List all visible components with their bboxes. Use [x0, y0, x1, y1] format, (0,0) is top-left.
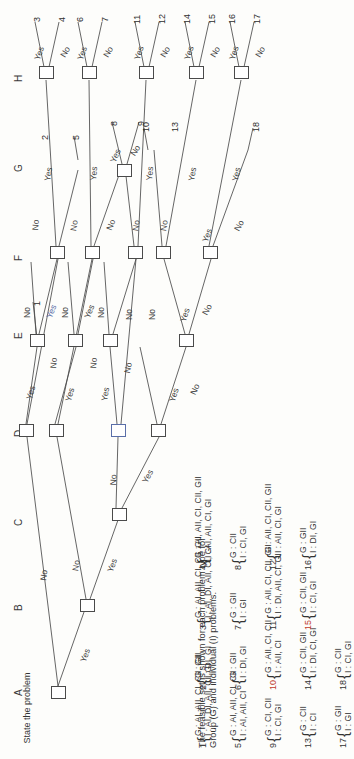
- tree-node-h5[interactable]: [234, 66, 249, 79]
- legend-index: 5: [233, 743, 243, 748]
- legend-brace-icon: {: [337, 732, 349, 737]
- leaf-number-4: 4: [57, 17, 67, 22]
- tree-node-d4[interactable]: [151, 424, 166, 437]
- leaf-number-16: 16: [227, 14, 237, 24]
- legend-brace-icon: {: [267, 554, 279, 559]
- tree-node-b1[interactable]: [80, 599, 95, 612]
- legend-brace-icon: {: [232, 737, 244, 742]
- legend-item: 18{G : CIII : CI, GI: [333, 641, 354, 690]
- edge-label-no: No: [22, 307, 32, 318]
- legend-item: 4{G : AI, AII, CI, CII, GIII : AI, AII, …: [193, 476, 214, 570]
- edge-label-no: No: [130, 219, 142, 231]
- legend-item: 9{G : CI, CIII : CI, GI: [263, 698, 284, 748]
- legend-index: 12: [268, 560, 278, 570]
- leaf-number-18: 18: [251, 122, 261, 132]
- leaf-number-12: 12: [157, 14, 167, 24]
- leaf-number-14: 14: [182, 14, 192, 24]
- leaf-number-15: 15: [207, 14, 217, 24]
- legend-group-set: G : CII: [298, 706, 308, 731]
- legend-individual-set: I : CI: [308, 706, 318, 731]
- legend-brace-icon: {: [232, 679, 244, 684]
- legend-brace-icon: {: [302, 732, 314, 737]
- legend-individual-set: I : GI: [343, 706, 353, 731]
- legend-item: 17{G : GIII : GI: [333, 706, 354, 748]
- tree-node-h4[interactable]: [189, 66, 204, 79]
- edge-label-no: No: [147, 309, 157, 320]
- legend-index: 14: [303, 680, 313, 690]
- tree-node-h2[interactable]: [82, 66, 97, 79]
- tree-node-f1[interactable]: [50, 246, 65, 259]
- leaf-number-1: 1: [32, 301, 42, 306]
- legend-item: 6{G : GIII : DI, GI: [228, 646, 249, 690]
- legend-group-set: G : CI, CII: [263, 698, 273, 736]
- legend-index: 3: [198, 625, 208, 630]
- edge-label-yes: Yes: [144, 166, 155, 181]
- legend-brace-icon: {: [302, 614, 314, 619]
- edge-label-no: No: [88, 357, 99, 369]
- tree-node-c1[interactable]: [112, 508, 127, 521]
- tree-node-e4[interactable]: [179, 334, 194, 347]
- legend-item: 7{G : GIII : GI: [228, 593, 249, 630]
- legend-group-set: G : CII: [333, 641, 343, 673]
- legend-item: 14{G : CII, GIII : DI, CI, GI: [298, 628, 319, 690]
- tree-node-a1[interactable]: [51, 686, 66, 699]
- legend-brace-icon: {: [267, 737, 279, 742]
- tree-node-f4[interactable]: [156, 246, 171, 259]
- legend-group-set: G : AI, AII, CI, CII, GII: [193, 476, 203, 558]
- edge-label-no: No: [60, 307, 70, 318]
- legend-individual-set: I : CI, GI: [308, 572, 318, 613]
- legend-brace-icon: {: [197, 619, 209, 624]
- tree-node-e2[interactable]: [68, 334, 83, 347]
- tree-node-d1[interactable]: [19, 424, 34, 437]
- legend-individual-set: I : DI, CI, GI: [308, 628, 318, 673]
- edge-label-no: No: [158, 219, 170, 231]
- legend-individual-set: I : CI, GI: [343, 641, 353, 673]
- tree-node-e3[interactable]: [103, 334, 118, 347]
- legend-group-set: G : GII: [228, 646, 238, 678]
- legend-group-set: G : GII: [298, 521, 308, 553]
- tree-node-h1[interactable]: [39, 66, 54, 79]
- edge-label-no: No: [30, 219, 41, 231]
- legend-group-set: G : CII, GII: [298, 572, 308, 613]
- tree-node-e1[interactable]: [30, 334, 45, 347]
- tree-node-f5[interactable]: [203, 246, 218, 259]
- legend-brace-icon: {: [197, 559, 209, 564]
- legend-index: 11: [268, 621, 278, 630]
- edge-label-no: No: [38, 569, 49, 581]
- tree-node-d2[interactable]: [49, 424, 64, 437]
- tree-node-f3[interactable]: [128, 246, 143, 259]
- leaf-number-2: 2: [40, 135, 50, 140]
- legend-brace-icon: {: [302, 674, 314, 679]
- legend-brace-icon: {: [197, 679, 209, 684]
- legend-individual-set: I : CI, GI: [273, 698, 283, 736]
- legend-index: 4: [198, 565, 208, 570]
- legend-index: 9: [268, 743, 278, 748]
- tree-node-g1[interactable]: [117, 164, 132, 177]
- legend-item: 10{G : AII, CI, CIII : AII, CI: [263, 620, 284, 690]
- legend-brace-icon: {: [197, 737, 209, 742]
- legend-brace-icon: {: [232, 619, 244, 624]
- legend-item: 12{G : AII, CI, CII, GIII : AII, CI, GI: [263, 484, 284, 570]
- legend-index: 6: [233, 685, 243, 690]
- legend-group-set: G : CII, GII: [298, 628, 308, 673]
- leaf-number-7: 7: [100, 17, 110, 22]
- legend-index: 7: [233, 625, 243, 630]
- legend-index: 10: [268, 680, 278, 690]
- edge-label-no: No: [96, 307, 106, 318]
- tree-node-f2[interactable]: [85, 246, 100, 259]
- edge-label-no: No: [48, 357, 59, 369]
- edge-label-yes: Yes: [88, 166, 99, 181]
- leaf-number-17: 17: [252, 14, 262, 24]
- leaf-number-3: 3: [32, 17, 42, 22]
- leaf-number-8: 8: [109, 121, 119, 126]
- legend-item: 16{G : GIII : DI, GI: [298, 521, 319, 570]
- legend-individual-set: I : GI: [238, 593, 248, 618]
- leaf-number-5: 5: [71, 135, 81, 140]
- legend-index: 17: [338, 738, 348, 748]
- tree-node-h3[interactable]: [139, 66, 154, 79]
- leaf-number-10: 10: [141, 122, 151, 132]
- tree-node-d3[interactable]: [111, 424, 126, 437]
- legend-individual-set: I : AI, AII, CI, GI: [203, 476, 213, 558]
- legend-index: 8: [233, 565, 243, 570]
